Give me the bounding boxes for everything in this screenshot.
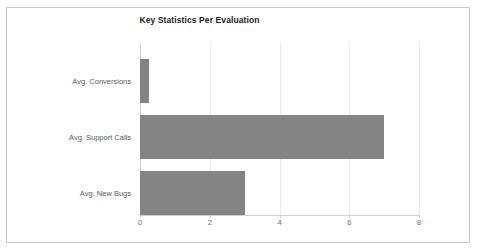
- chart-title: Key Statistics Per Evaluation: [7, 15, 392, 25]
- chart-screenshot: Key Statistics Per Evaluation Avg. Conve…: [0, 0, 478, 252]
- category-label-0: Avg. Conversions: [72, 77, 131, 86]
- x-tick-label-2: 2: [208, 218, 212, 227]
- bar-avg-new-bugs[interactable]: [140, 171, 245, 215]
- x-tick-label-0: 0: [138, 218, 142, 227]
- x-tick-label-4: 4: [277, 218, 281, 227]
- plot-area: Avg. Conversions Avg. Support Calls Avg.…: [140, 43, 419, 215]
- gridline-8: [419, 43, 420, 215]
- x-tick-label-6: 6: [347, 218, 351, 227]
- bar-avg-conversions[interactable]: [140, 59, 149, 103]
- category-label-2: Avg. New Bugs: [80, 189, 131, 198]
- chart-card: Key Statistics Per Evaluation Avg. Conve…: [6, 7, 470, 243]
- bar-avg-support-calls[interactable]: [140, 115, 384, 159]
- bar-row: Avg. Conversions: [140, 59, 149, 103]
- x-tick-label-8: 8: [417, 218, 421, 227]
- bar-row: Avg. New Bugs: [140, 171, 245, 215]
- bar-row: Avg. Support Calls: [140, 115, 384, 159]
- category-label-1: Avg. Support Calls: [69, 133, 131, 142]
